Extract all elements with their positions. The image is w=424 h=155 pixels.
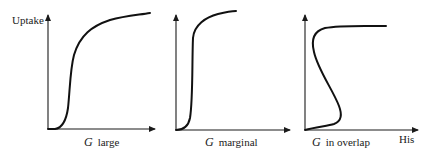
panel-g-large xyxy=(48,13,155,129)
y-axis-label: Uptake xyxy=(12,14,44,26)
panel-g-in-overlap xyxy=(305,15,418,130)
panel-caption-3: Gin overlap xyxy=(312,135,370,150)
g-symbol: G xyxy=(205,135,214,149)
panel-caption-2: Gmarginal xyxy=(205,135,258,150)
panel-g-marginal xyxy=(176,11,290,130)
caption-text: in overlap xyxy=(326,136,370,148)
caption-text: marginal xyxy=(219,136,258,148)
uptake-curve-1 xyxy=(48,13,150,129)
uptake-curve-3 xyxy=(305,26,386,130)
caption-text: large xyxy=(98,136,120,148)
figure-canvas xyxy=(0,0,424,155)
g-symbol: G xyxy=(312,135,321,149)
panel-caption-1: Glarge xyxy=(84,135,119,150)
g-symbol: G xyxy=(84,135,93,149)
x-axis-label: His xyxy=(399,133,414,145)
uptake-curve-2 xyxy=(176,11,236,130)
